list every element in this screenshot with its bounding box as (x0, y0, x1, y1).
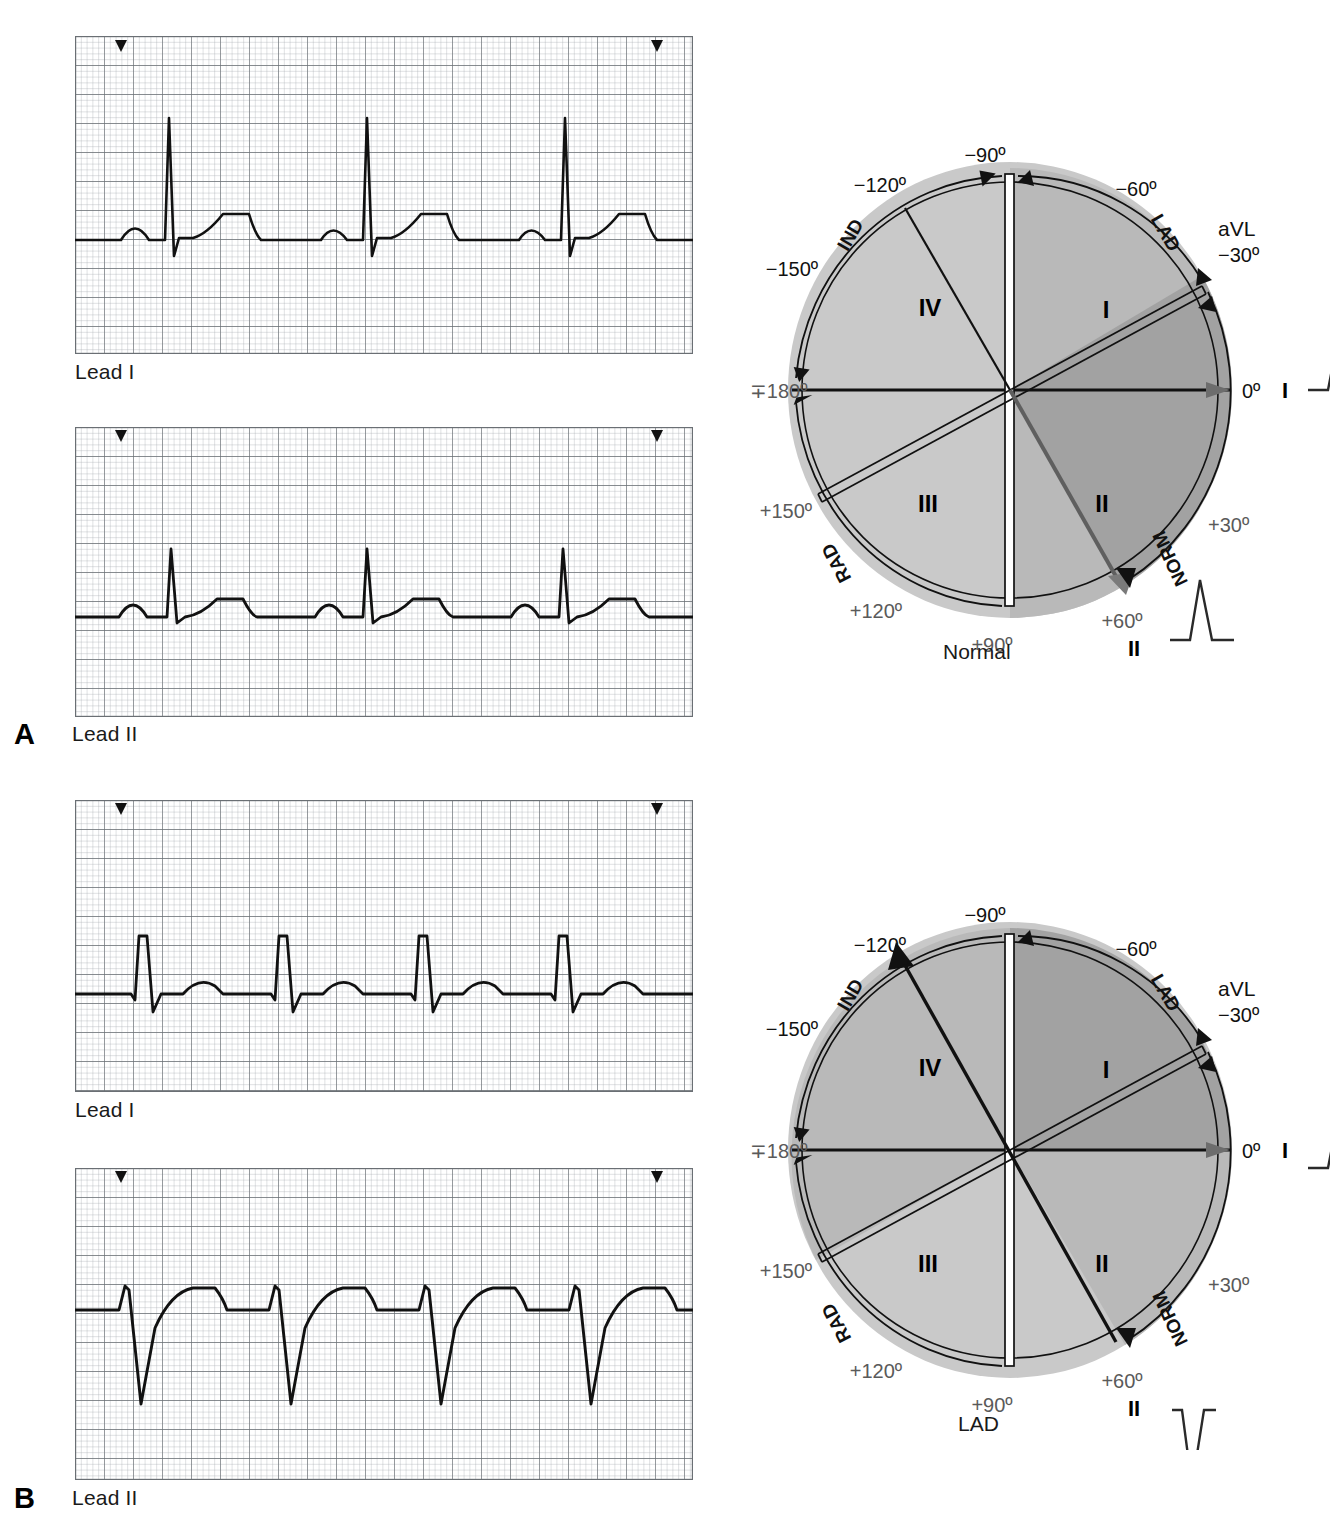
label-plus120: +120º (850, 600, 903, 622)
hexaxial-circle-lad: −90º −120º −150º −60º −30º ∓180º 0º +30º… (730, 890, 1330, 1454)
panel-letter-b: B (14, 1482, 35, 1515)
label-minus90: −90º (964, 904, 1006, 926)
quadrant-III: III (918, 490, 938, 517)
panelB-lead2-label: Lead II (72, 1486, 138, 1510)
label-minus150: −150º (766, 258, 819, 280)
label-minus150: −150º (766, 1018, 819, 1040)
label-plus60: +60º (1101, 610, 1143, 632)
label-plus150: +150º (760, 1260, 813, 1282)
label-plus30: +30º (1208, 1274, 1250, 1296)
label-0deg: 0º (1242, 380, 1261, 402)
panelB-lead1-label: Lead I (75, 1098, 135, 1122)
panelA-lead2-tracing (75, 427, 693, 717)
ecg-grid-svg (75, 1168, 693, 1480)
lead-marker-II: II (1128, 1396, 1140, 1421)
quadrant-I: I (1103, 296, 1110, 323)
inset-qrs-lead-II (1170, 580, 1234, 640)
label-pm180: ∓180º (750, 380, 808, 402)
label-minus60: −60º (1115, 178, 1157, 200)
ecg-grid-svg (75, 36, 693, 354)
lead-marker-avl: aVL (1218, 217, 1255, 240)
panelB-lead2-tracing (75, 1168, 693, 1480)
label-plus120: +120º (850, 1360, 903, 1382)
label-minus60: −60º (1115, 938, 1157, 960)
label-pm180: ∓180º (750, 1140, 808, 1162)
label-plus30: +30º (1208, 514, 1250, 536)
label-plus60: +60º (1101, 1370, 1143, 1392)
panelA-lead1-tracing (75, 36, 693, 354)
label-minus30: −30º (1218, 244, 1260, 266)
label-minus30: −30º (1218, 1004, 1260, 1026)
quadrant-II: II (1095, 490, 1108, 517)
ecg-grid-svg (75, 800, 693, 1092)
label-0deg: 0º (1242, 1140, 1261, 1162)
circle-caption-lad: LAD (958, 1412, 999, 1436)
panelA-lead1-label: Lead I (75, 360, 135, 384)
label-minus120: −120º (854, 934, 907, 956)
quadrant-IV: IV (919, 1054, 942, 1081)
lead-marker-I: I (1282, 378, 1288, 403)
inset-qrs-lead-II (1172, 1410, 1216, 1450)
panelA-lead2-label: Lead II (72, 722, 138, 746)
label-plus150: +150º (760, 500, 813, 522)
quadrant-IV: IV (919, 294, 942, 321)
label-minus120: −120º (854, 174, 907, 196)
lead-marker-I: I (1282, 1138, 1288, 1163)
quadrant-I: I (1103, 1056, 1110, 1083)
label-minus90: −90º (964, 144, 1006, 166)
panel-letter-a: A (14, 718, 35, 751)
circle-caption-normal: Normal (943, 640, 1011, 664)
inset-qrs-lead-I (1308, 338, 1330, 390)
lead-marker-II: II (1128, 636, 1140, 661)
quadrant-II: II (1095, 1250, 1108, 1277)
ecg-grid-svg (75, 427, 693, 717)
quadrant-III: III (918, 1250, 938, 1277)
lead-marker-avl: aVL (1218, 977, 1255, 1000)
hexaxial-circle-normal: −90º −120º −150º −60º −30º ∓180º 0º +30º… (730, 140, 1330, 684)
panelB-lead1-tracing (75, 800, 693, 1092)
inset-qrs-lead-I (1308, 1116, 1330, 1168)
